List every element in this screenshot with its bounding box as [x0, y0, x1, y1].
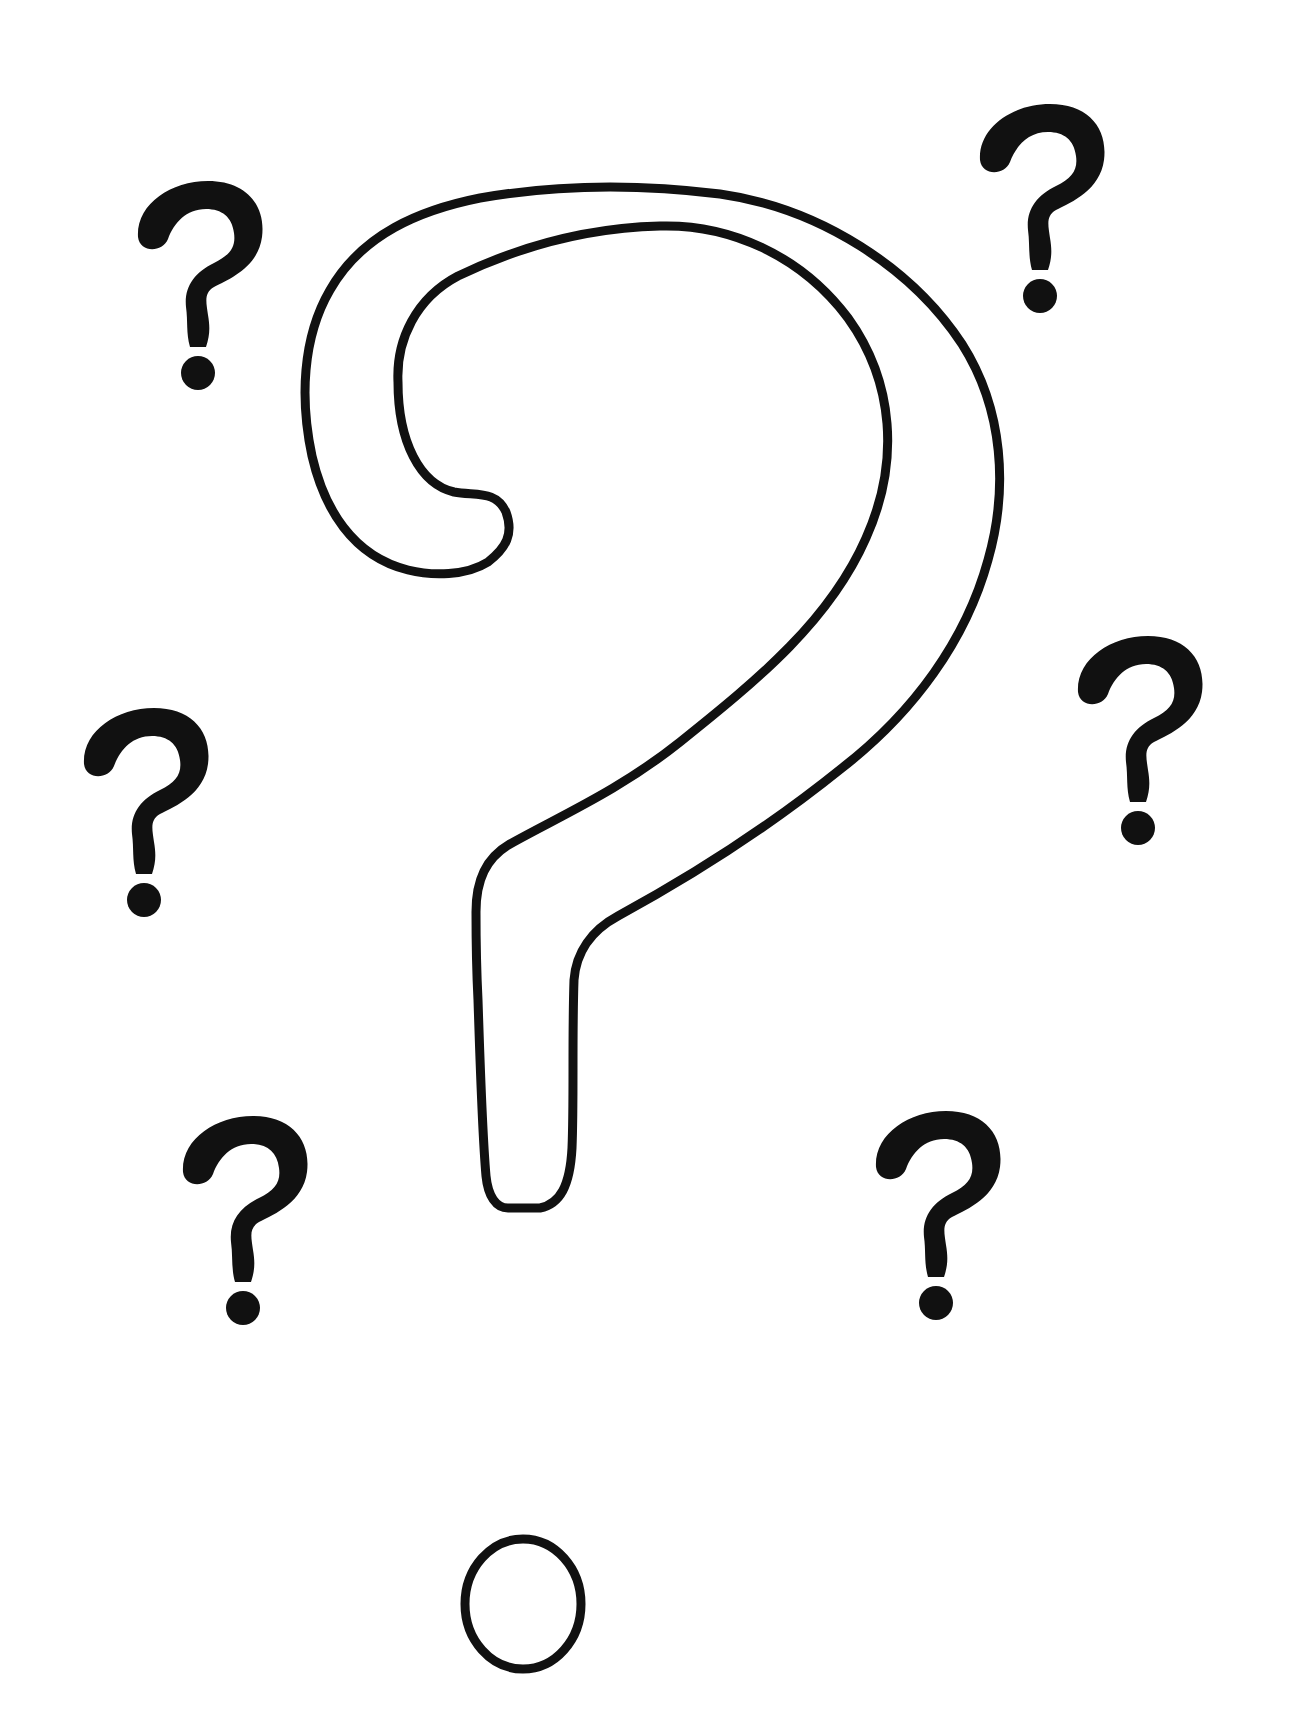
question-mark-icon	[138, 181, 263, 390]
large-question-mark-outline	[305, 187, 1000, 1669]
illustration-canvas: question marks	[0, 0, 1295, 1709]
question-mark-icon	[1078, 636, 1203, 845]
question-mark-icon	[876, 1111, 1001, 1320]
question-mark-icon	[84, 708, 209, 917]
question-mark-icon	[980, 104, 1105, 313]
question-mark-icon	[183, 1116, 308, 1325]
